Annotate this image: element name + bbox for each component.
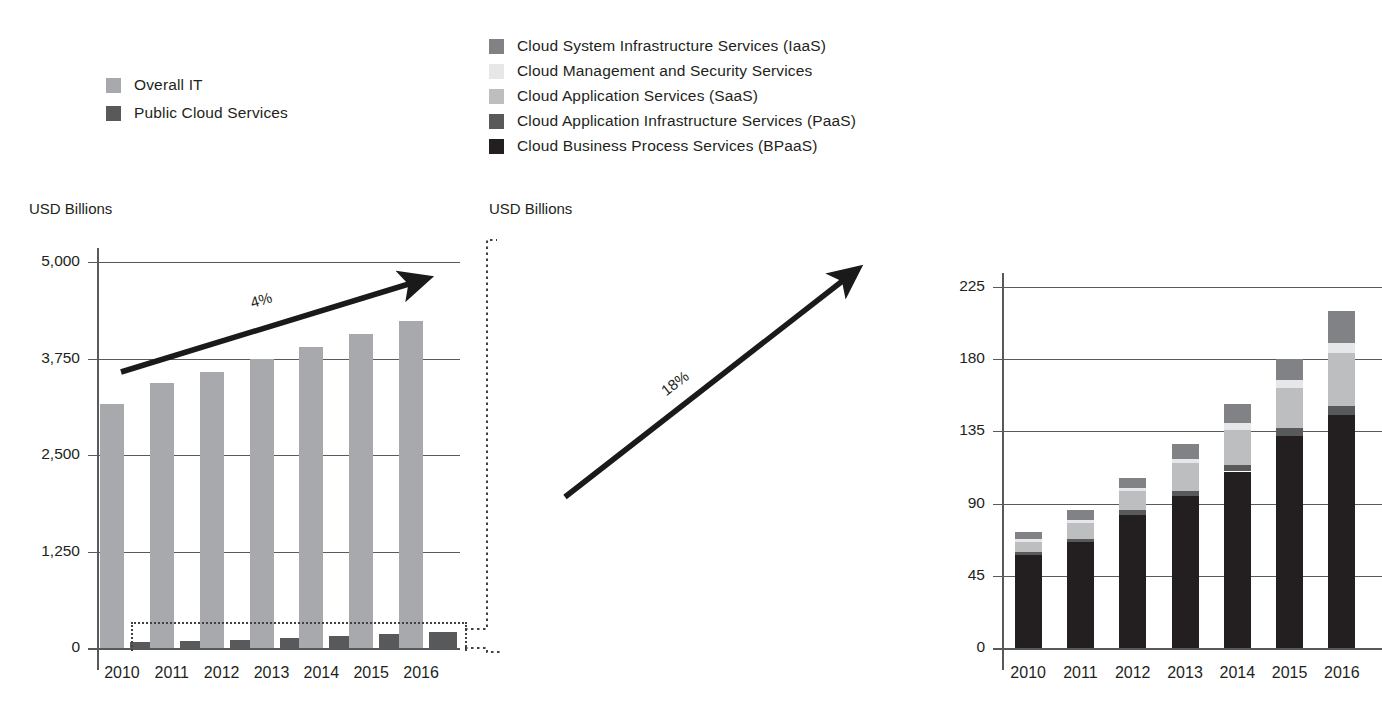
left-chart-panel: 01,2502,5003,7505,0002010201120122013201… [0,0,463,708]
bar-segment [1328,353,1355,406]
bar-segment [1224,430,1251,465]
bar-segment [1276,388,1303,428]
bar-segment [1172,463,1199,490]
bar-segment [1172,444,1199,458]
stacked-bar [1172,287,1199,648]
y-axis-tick [993,287,1002,288]
y-axis-tick [993,504,1002,505]
stacked-bar [1328,287,1355,648]
bar-segment [1015,552,1042,555]
bar-segment [1015,555,1042,648]
bar-overall-it [250,359,274,648]
bar-segment [1172,459,1199,464]
bar-segment [1328,311,1355,343]
bar-overall-it [150,383,174,648]
stacked-bar [1015,287,1042,648]
bar-segment [1067,520,1094,523]
bar-segment [1328,343,1355,353]
bar-overall-it [100,404,124,648]
y-axis-tick-label: 135 [915,421,985,439]
y-axis-tick [88,552,97,553]
y-axis-tick [88,262,97,263]
y-axis-tick-label: 90 [915,494,985,512]
bar-overall-it [349,334,373,648]
bar-segment [1067,539,1094,542]
bar-segment [1119,491,1146,510]
y-axis-tick-label: 5,000 [10,252,80,270]
stacked-bar [1119,287,1146,648]
y-axis-tick-label: 3,750 [10,349,80,367]
y-axis-tick-label: 2,500 [10,445,80,463]
bar-segment [1276,380,1303,388]
bar-segment [1328,415,1355,648]
bar-overall-it [200,372,224,648]
bar-segment [1119,488,1146,491]
bar-segment [1067,510,1094,520]
y-axis-tick-label: 225 [915,277,985,295]
bar-segment [1015,542,1042,552]
y-axis-line [97,248,99,670]
y-axis-tick-label: 0 [10,638,80,656]
y-axis-tick [88,455,97,456]
bar-segment [1172,491,1199,496]
right-chart-panel: 0459013518022520102011201220132014201520… [463,0,926,708]
bar-segment [1224,472,1251,648]
x-axis-line [993,648,1382,650]
y-axis-tick-label: 180 [915,349,985,367]
bar-segment [1224,404,1251,423]
y-axis-tick [993,359,1002,360]
x-axis-tick-label: 2016 [1302,664,1382,682]
bar-segment [1119,510,1146,515]
bar-segment [1276,359,1303,380]
bar-segment [1276,428,1303,436]
stacked-bar [1276,287,1303,648]
bar-segment [1172,496,1199,648]
bar-overall-it [399,321,423,648]
y-axis-tick [993,431,1002,432]
y-axis-tick [88,359,97,360]
y-axis-line [1002,273,1004,670]
y-axis-tick [993,576,1002,577]
bar-segment [1224,465,1251,471]
stacked-bar [1067,287,1094,648]
bar-segment [1224,423,1251,429]
bar-segment [1015,539,1042,542]
bar-segment [1328,406,1355,416]
bar-segment [1276,436,1303,648]
stacked-bar [1224,287,1251,648]
y-axis-tick-label: 1,250 [10,542,80,560]
bar-overall-it [299,347,323,648]
public-cloud-callout-box [131,622,467,651]
y-axis-tick-label: 0 [915,638,985,656]
gridline [97,262,460,263]
x-axis-tick-label: 2016 [381,664,461,682]
bar-segment [1067,523,1094,539]
bar-segment [1067,542,1094,648]
bar-segment [1119,478,1146,488]
y-axis-tick-label: 45 [915,566,985,584]
bar-segment [1015,532,1042,538]
bar-segment [1119,515,1146,648]
